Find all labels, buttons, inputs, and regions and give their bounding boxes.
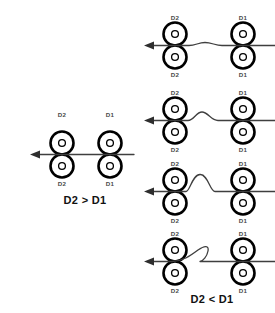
roller-label-top-left: D2	[171, 14, 180, 21]
roller-label-top-left: D2	[171, 230, 180, 237]
roller-hub-top-right	[240, 247, 247, 254]
roller-label-top-right: D1	[239, 89, 248, 96]
roller-label-bottom-right: D1	[239, 146, 248, 153]
roller-hub-bottom-right	[107, 163, 114, 170]
web-direction-arrow	[144, 117, 154, 125]
roller-hub-top-right	[107, 140, 114, 147]
panel-stage-1: D2 D2 D1 D1	[144, 14, 275, 78]
roller-label-top-left: D2	[171, 89, 180, 96]
web-direction-arrow	[144, 188, 154, 196]
roller-label-top-right: D1	[239, 14, 248, 21]
panel-stage-3: D2 D2 D1 D1	[144, 160, 275, 224]
roller-label-bottom-right: D1	[239, 217, 248, 224]
roller-hub-top-right	[240, 31, 247, 38]
roller-label-bottom-left: D2	[171, 146, 180, 153]
roller-hub-top-right	[240, 177, 247, 184]
roller-pair-right: D1 D1	[99, 111, 122, 187]
roller-label-bottom-left: D2	[171, 217, 180, 224]
roller-hub-bottom-left	[172, 129, 179, 136]
roller-hub-bottom-left	[172, 54, 179, 61]
roller-hub-top-left	[172, 177, 179, 184]
roller-label-bottom-right: D1	[239, 287, 248, 294]
roller-label-bottom-right: D1	[106, 180, 115, 187]
roller-hub-bottom-right	[240, 270, 247, 277]
diagram-canvas: D2 D2 D1 D1 D2 > D1 D2 D2	[0, 0, 275, 313]
roller-label-top-left: D2	[171, 160, 180, 167]
caption-right: D2 < D1	[191, 293, 234, 305]
roller-hub-bottom-left	[59, 163, 66, 170]
panel-stage-2: D2 D2 D1 D1	[144, 89, 275, 153]
roller-label-top-right: D1	[106, 111, 115, 118]
roller-hub-bottom-right	[240, 129, 247, 136]
roller-label-top-left: D2	[58, 111, 67, 118]
roller-hub-bottom-left	[172, 270, 179, 277]
caption-left: D2 > D1	[64, 194, 107, 206]
web-direction-arrow	[30, 151, 40, 159]
roller-label-bottom-left: D2	[58, 180, 67, 187]
roller-hub-top-left	[59, 140, 66, 147]
roller-pair-left: D2 D2	[51, 111, 74, 187]
panel-left: D2 D2 D1 D1 D2 > D1	[30, 111, 134, 206]
roller-label-bottom-right: D1	[239, 71, 248, 78]
panel-stage-4: D2 D2 D1 D1 D2 < D1	[144, 230, 275, 305]
roller-hub-top-left	[172, 247, 179, 254]
roller-hub-bottom-right	[240, 54, 247, 61]
roller-hub-bottom-right	[240, 200, 247, 207]
roller-hub-bottom-left	[172, 200, 179, 207]
roller-label-top-right: D1	[239, 160, 248, 167]
web-direction-arrow	[144, 42, 154, 50]
roller-label-bottom-left: D2	[171, 287, 180, 294]
web-direction-arrow	[144, 258, 154, 266]
roller-hub-top-left	[172, 106, 179, 113]
roller-hub-top-left	[172, 31, 179, 38]
roller-hub-top-right	[240, 106, 247, 113]
roller-label-top-right: D1	[239, 230, 248, 237]
roller-label-bottom-left: D2	[171, 71, 180, 78]
